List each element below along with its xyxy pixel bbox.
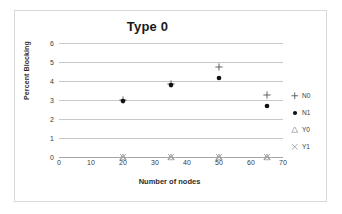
data-point-n1 xyxy=(119,96,128,105)
legend-item-y0: Y0 xyxy=(289,121,329,138)
y-axis-tick-label: 4 xyxy=(50,78,54,85)
y-axis-tick-label: 1 xyxy=(50,135,54,142)
data-point-n1 xyxy=(215,74,224,83)
data-point-n1 xyxy=(263,101,272,110)
chart-title: Type 0 xyxy=(15,19,280,34)
x-axis-tick-label: 40 xyxy=(183,159,191,166)
gridline xyxy=(59,138,283,139)
gridline xyxy=(59,119,283,120)
x-axis-tick-label: 30 xyxy=(151,159,159,166)
plot-area: 0123456 xyxy=(59,43,283,157)
x-axis-title: Number of nodes xyxy=(57,177,282,186)
legend-label: N1 xyxy=(302,109,310,116)
triangle-marker-icon xyxy=(289,124,300,135)
x-axis-tick-label: 20 xyxy=(119,159,127,166)
data-point-n1 xyxy=(167,80,176,89)
legend-label: N0 xyxy=(302,92,310,99)
chart-legend: N0N1Y0Y1 xyxy=(289,87,329,155)
legend-item-n0: N0 xyxy=(289,87,329,104)
gridline xyxy=(59,43,283,44)
x-axis-tick-label: 70 xyxy=(279,159,287,166)
legend-label: Y1 xyxy=(302,143,310,150)
x-axis-tick-label: 50 xyxy=(215,159,223,166)
legend-item-n1: N1 xyxy=(289,104,329,121)
x-axis-tick-labels: 010203040506070 xyxy=(59,159,283,171)
plus-marker-icon xyxy=(289,90,300,101)
y-axis-tick-label: 3 xyxy=(50,97,54,104)
chart-container: Type 0 Percent Blocking 0123456 01020304… xyxy=(14,10,327,202)
y-axis-tick-label: 5 xyxy=(50,59,54,66)
x-axis-tick-label: 10 xyxy=(87,159,95,166)
legend-item-y1: Y1 xyxy=(289,138,329,155)
y-axis-tick-label: 0 xyxy=(50,154,54,161)
legend-label: Y0 xyxy=(302,126,310,133)
gridline xyxy=(59,100,283,101)
y-axis-tick-label: 6 xyxy=(50,40,54,47)
x-axis-tick-label: 60 xyxy=(247,159,255,166)
x-axis-tick-label: 0 xyxy=(57,159,61,166)
circle-marker-icon xyxy=(289,107,300,118)
data-point-n0 xyxy=(263,91,271,99)
y-axis-title: Percent Blocking xyxy=(23,28,30,114)
cross-marker-icon xyxy=(289,141,300,152)
gridline xyxy=(59,62,283,63)
data-point-n0 xyxy=(215,63,223,71)
y-axis-tick-label: 2 xyxy=(50,116,54,123)
